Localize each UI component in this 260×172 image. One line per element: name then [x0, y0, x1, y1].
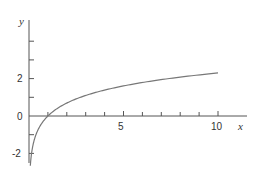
x-axis-label: x — [237, 120, 243, 132]
y-axis-label: y — [18, 15, 24, 27]
x-tick-label-5: 5 — [118, 121, 124, 132]
x-tick-label-10: 10 — [211, 121, 223, 132]
y-ticks — [29, 41, 34, 153]
y-tick-label-2: 2 — [17, 73, 23, 84]
x-ticks — [48, 111, 218, 116]
ln-curve — [30, 73, 218, 166]
y-tick-label-0: 0 — [17, 111, 23, 122]
axes — [29, 20, 247, 163]
ln-plot: y x 5 10 0 2 -2 — [0, 0, 260, 172]
y-tick-label-neg2: -2 — [12, 148, 21, 159]
